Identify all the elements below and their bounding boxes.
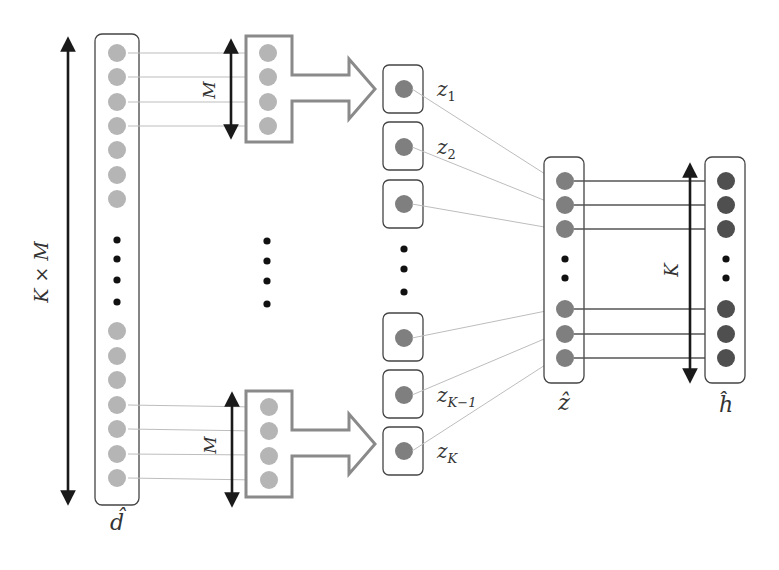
top-group-arrow [246,36,375,142]
z-to-zhat-connectors [412,89,556,451]
bottom-group-size-label: M [200,436,220,455]
z-hat-label: ẑ [557,390,570,415]
groups-ellipsis [263,237,270,307]
bottom-group-arrow [246,391,375,497]
input-vector-label: d̂ [110,507,127,535]
output-length-label: K [661,262,682,278]
bottom-group-connectors [128,405,258,480]
z-ellipsis [400,245,407,295]
top-group-size-label: M [199,81,219,100]
z-k-label: zK [436,439,459,466]
zhat-to-hhat-arrows [574,181,714,358]
total-length-label: K × M [30,241,52,304]
diagram-canvas: K × M d̂ M M [0,0,779,570]
z1-label: z1 [436,77,456,104]
top-group-connectors [128,53,258,126]
h-hat-label: ĥ [719,391,733,417]
z-k-minus-1-label: zK−1 [436,383,476,410]
